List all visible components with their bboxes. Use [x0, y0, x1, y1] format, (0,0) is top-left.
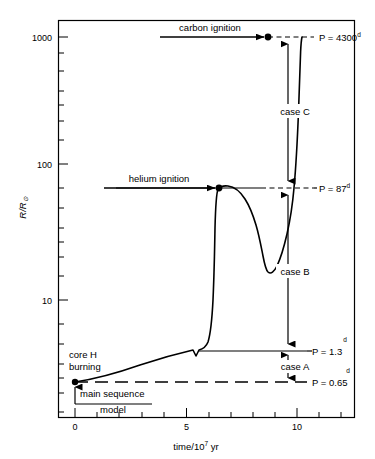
figure-root: 1000 100 10 R/R⊙ 0 5 10 time/107 yr — [0, 0, 375, 459]
y-tick-label-100: 100 — [37, 160, 52, 170]
y-axis-title-main: R/R — [17, 202, 28, 219]
core-h-burning-label-line2: burning — [69, 361, 101, 372]
y-tick-label-1000: 1000 — [32, 33, 52, 43]
y-axis-title-sub: ⊙ — [22, 196, 29, 202]
svg-text:R/R⊙: R/R⊙ — [17, 196, 29, 218]
period-0.65d-sup: d — [346, 367, 350, 374]
helium-ignition-point — [216, 185, 223, 192]
chart-svg: 1000 100 10 R/R⊙ 0 5 10 time/107 yr — [0, 0, 375, 459]
period-4300d-sup: d — [357, 31, 361, 38]
period-87d-sup: d — [347, 182, 351, 189]
period-1.3d-label: P = 1.3 — [312, 346, 342, 357]
carbon-ignition-point — [265, 34, 272, 41]
x-tick-label-0: 0 — [72, 422, 77, 432]
main-sequence-label-line1: main sequence — [80, 388, 144, 399]
x-tick-label-10: 10 — [292, 422, 302, 432]
x-tick-label-5: 5 — [184, 422, 189, 432]
case-c-label: case C — [280, 106, 310, 117]
period-0.65d-label: P = 0.65 — [312, 377, 347, 388]
main-sequence-model-point — [72, 379, 78, 385]
period-1.3d-sup: d — [343, 336, 347, 343]
period-87d-label: P = 87d — [319, 182, 351, 194]
helium-ignition-label: helium ignition — [129, 173, 190, 184]
main-sequence-label-line2: model — [100, 404, 126, 415]
period-87d-text: P = 87 — [319, 183, 347, 194]
x-axis-title-tail: yr — [208, 441, 219, 452]
case-b-label: case B — [280, 266, 309, 277]
y-tick-label-10: 10 — [42, 296, 52, 306]
period-4300d-label: P = 4300d — [319, 31, 361, 43]
case-a-label: case A — [281, 361, 310, 372]
core-h-burning-label-line1: core H — [69, 349, 97, 360]
evolution-track-curve — [75, 37, 302, 382]
y-axis-title: R/R⊙ — [17, 196, 29, 218]
plot-frame — [59, 21, 355, 418]
y-axis-ticks — [59, 21, 69, 413]
carbon-ignition-label: carbon ignition — [179, 22, 241, 33]
x-axis-title-main: time/10 — [173, 441, 204, 452]
x-axis-title: time/107 yr — [173, 440, 218, 452]
period-4300d-text: P = 4300 — [319, 32, 357, 43]
